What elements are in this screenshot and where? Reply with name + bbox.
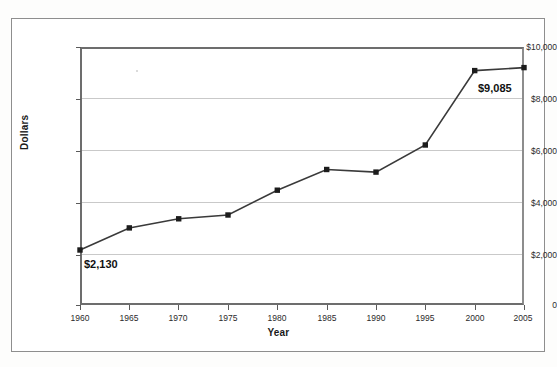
scan-speck (136, 70, 138, 72)
y-axis-title: Dollars (19, 115, 30, 150)
data-point-1960 (77, 247, 82, 252)
data-point-1995 (423, 142, 428, 147)
data-point-1975 (225, 212, 230, 217)
data-series-line (0, 0, 557, 367)
x-axis-title: Year (0, 327, 557, 338)
data-point-1985 (324, 167, 329, 172)
data-point-1980 (275, 188, 280, 193)
series-polyline (80, 68, 524, 250)
data-point-1965 (127, 225, 132, 230)
data-point-1970 (176, 216, 181, 221)
line-chart: $10,000 $8,000 $6,000 $4,000 $2,000 0 19… (0, 0, 557, 367)
data-label-1960: $2,130 (84, 258, 118, 270)
data-point-2005 (521, 65, 526, 70)
data-point-1990 (373, 169, 378, 174)
data-point-2000 (472, 68, 477, 73)
data-label-2000: $9,085 (478, 82, 512, 94)
